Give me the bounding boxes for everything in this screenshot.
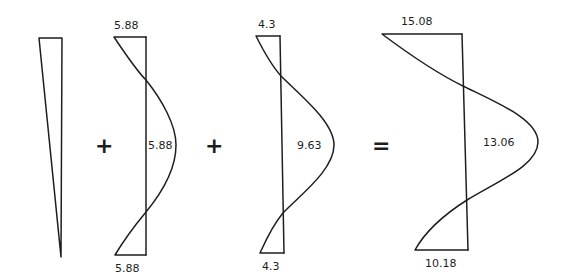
diagram-2-mid-value: 5.88	[148, 139, 173, 152]
diagram-3-bottom-value: 4.3	[262, 260, 280, 273]
linear-moment-diagram	[39, 38, 62, 257]
superposition-diagram: + 5.88 5.88 5.88 + 4.3 9.63 4.3 = 15.08 …	[0, 0, 568, 280]
equals-operator: =	[372, 133, 390, 158]
diagram-3-top-value: 4.3	[258, 18, 276, 31]
result-top-value: 15.08	[401, 15, 433, 28]
result-mid-value: 13.06	[483, 136, 515, 149]
result-bottom-value: 10.18	[425, 257, 457, 270]
diagram-2-bottom-value: 5.88	[115, 262, 140, 275]
plus-operator-2: +	[205, 133, 223, 158]
plus-operator-1: +	[95, 133, 113, 158]
diagram-2-top-value: 5.88	[114, 19, 139, 32]
diagram-3-mid-value: 9.63	[297, 139, 322, 152]
moment-diagram-3	[256, 36, 334, 253]
result-moment-diagram	[382, 34, 538, 250]
